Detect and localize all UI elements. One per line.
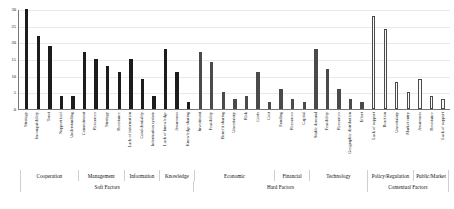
bar-slot [437, 10, 449, 109]
bar [118, 72, 121, 109]
x-tick-slot: Trust [43, 112, 55, 167]
x-tick-slot: Knowledge sharing [182, 112, 194, 167]
supergroup-label: Soft Factors [20, 181, 193, 192]
x-tick-label: Awareness [174, 112, 179, 131]
bar-chart: 051015202530 StrategyIncompatibilityTrus… [0, 0, 454, 209]
bar-slot [194, 10, 206, 109]
x-tick-slot: Strategy [101, 112, 113, 167]
x-axis-tick-labels: StrategyIncompatibilityTrustSupport tool… [18, 112, 450, 167]
plot-wrapper: 051015202530 StrategyIncompatibilityTrus… [0, 0, 454, 209]
x-tick-label: Market entry [406, 112, 411, 135]
bar-slot [252, 10, 264, 109]
x-tick-label: Cost [267, 112, 272, 120]
x-tick-slot: Resources [333, 112, 345, 167]
supergroup-band: Soft FactorsHard FactorsContextual Facto… [18, 181, 450, 192]
x-tick-slot: Funding [275, 112, 287, 167]
y-tick-label: 10 [11, 74, 16, 79]
bar [337, 89, 340, 109]
y-tick-label: 15 [11, 58, 16, 63]
x-tick-label: Benefit sharing [220, 112, 225, 139]
x-tick-label: Capital [302, 112, 307, 125]
bar [233, 99, 236, 109]
y-tick-label: 5 [14, 91, 16, 96]
bar-slot [414, 10, 426, 109]
x-tick-label: Uncertainty [394, 112, 399, 133]
x-tick-label: Strategy [23, 112, 28, 127]
x-tick-label: Trust [47, 112, 52, 121]
x-tick-label: Understanding [70, 112, 75, 138]
bar [430, 96, 433, 109]
bar [106, 66, 109, 109]
bar-slot [218, 10, 230, 109]
bar-slot [379, 10, 391, 109]
bar-slot [171, 10, 183, 109]
x-tick-slot: Confidentiality [136, 112, 148, 167]
x-tick-label: Feasibility [325, 112, 330, 131]
x-tick-slot: Lack of support [437, 112, 449, 167]
x-tick-slot: Resources [287, 112, 299, 167]
group-label: Financial [274, 170, 309, 181]
bar [199, 52, 202, 109]
bar-slot [275, 10, 287, 109]
x-tick-slot: Geographic distribution [345, 112, 357, 167]
bar [268, 102, 271, 109]
bar [314, 49, 317, 109]
x-tick-slot: Resistance [426, 112, 438, 167]
x-tick-label: Reaction [383, 112, 388, 128]
bar [152, 96, 155, 109]
bar-slot [299, 10, 311, 109]
bar-slot [287, 10, 299, 109]
x-tick-slot: Lack of information [124, 112, 136, 167]
bar-slot [114, 10, 126, 109]
x-tick-label: Lack of information [128, 112, 133, 147]
x-tick-label: Information system [151, 112, 156, 146]
x-tick-slot: Effort [356, 112, 368, 167]
x-tick-label: Resistance [116, 112, 121, 131]
y-tick-label: 20 [11, 41, 16, 46]
x-tick-slot: Uncertainty [229, 112, 241, 167]
bar [245, 96, 248, 109]
group-label: Economic [194, 170, 274, 181]
bar [222, 92, 225, 109]
bar-slot [356, 10, 368, 109]
bar [418, 79, 421, 109]
x-tick-label: Geographic distribution [348, 112, 353, 154]
x-tick-slot: Uncertainty [391, 112, 403, 167]
y-tick-label: 30 [11, 8, 16, 13]
x-tick-label: Lack of support [371, 112, 376, 140]
bar-slot [183, 10, 195, 109]
x-tick-label: Lack of knowledge [163, 112, 168, 146]
bar-slot [44, 10, 56, 109]
x-tick-label: Funding [278, 112, 283, 127]
x-tick-label: Awareness [418, 112, 423, 131]
group-band: CooperationManagementInformationKnowledg… [18, 170, 450, 181]
bar [279, 89, 282, 109]
bar-slot [322, 10, 334, 109]
x-tick-slot: Capital [298, 112, 310, 167]
x-tick-label: Resources [290, 112, 295, 130]
bar [48, 46, 51, 109]
x-tick-slot: Strategy [20, 112, 32, 167]
x-tick-slot: Cost [263, 112, 275, 167]
bar [360, 102, 363, 109]
x-tick-label: Incompatibility [35, 112, 40, 139]
x-tick-slot: Reaction [379, 112, 391, 167]
bar [210, 62, 213, 109]
bar [83, 52, 86, 109]
bar-slot [56, 10, 68, 109]
supergroup-label: Hard Factors [193, 181, 366, 192]
supergroup-label: Contextual Factors [367, 181, 449, 192]
bar-slot [229, 10, 241, 109]
bar [71, 96, 74, 109]
group-label: Policy/Regulation [367, 170, 413, 181]
x-tick-slot: Lack of support [368, 112, 380, 167]
x-tick-slot: Resistance [113, 112, 125, 167]
x-tick-label: Uncertainty [232, 112, 237, 133]
bar [407, 92, 410, 109]
bar-series [19, 10, 450, 109]
bar [60, 96, 63, 109]
bar [303, 102, 306, 109]
bar [94, 59, 97, 109]
x-tick-label: Confidentiality [139, 112, 144, 139]
x-tick-label: Support tool [58, 112, 63, 134]
